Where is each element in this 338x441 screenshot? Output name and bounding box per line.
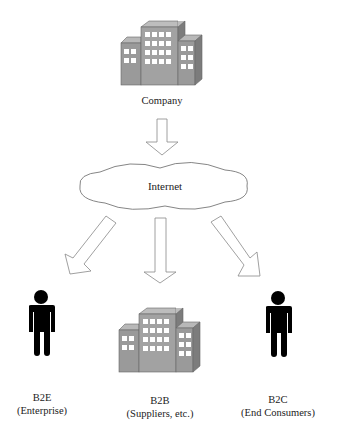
company-label: Company (142, 94, 183, 107)
b2c-title: B2C (241, 393, 315, 406)
arrow-down-left-icon (65, 216, 116, 274)
b2b-subtitle: (Suppliers, etc.) (127, 407, 194, 420)
b2e-label: B2E (Enterprise) (17, 391, 67, 417)
b2c-subtitle: (End Consumers) (241, 406, 315, 419)
b2b-building-icon (119, 308, 200, 372)
b2e-person-icon (29, 290, 55, 356)
arrow-down-icon (146, 119, 178, 155)
b2e-title: B2E (17, 391, 67, 404)
company-building-icon (121, 21, 202, 85)
b2c-person-icon (266, 291, 292, 357)
b2b-title: B2B (127, 394, 194, 407)
diagram-canvas (0, 0, 338, 441)
arrow-down-center-icon (144, 218, 176, 283)
company-label-text: Company (142, 94, 183, 107)
internet-label: Internet (148, 180, 182, 192)
b2b-label: B2B (Suppliers, etc.) (127, 394, 194, 420)
b2e-subtitle: (Enterprise) (17, 404, 67, 417)
arrow-down-right-icon (211, 216, 260, 276)
b2c-label: B2C (End Consumers) (241, 393, 315, 419)
